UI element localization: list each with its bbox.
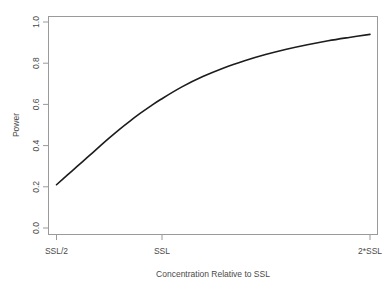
x-tick-label-2: 2*SSL: [358, 246, 382, 256]
y-tick-label-1: 0.2: [31, 181, 41, 193]
y-tick-label-2: 0.4: [31, 139, 41, 151]
plot-frame: [49, 17, 378, 235]
x-axis-ticks: [57, 235, 371, 240]
chart-canvas: 0.0 0.2 0.4 0.6 0.8 1.0 Power SSL/2 SSL …: [0, 0, 392, 289]
y-tick-label-5: 1.0: [31, 16, 41, 28]
x-tick-label-0: SSL/2: [45, 246, 68, 256]
y-axis-tick-labels: 0.0 0.2 0.4 0.6 0.8 1.0: [31, 16, 41, 234]
x-axis-title: Concentration Relative to SSL: [156, 269, 270, 279]
power-curve-line: [57, 34, 371, 184]
power-curve-figure: 0.0 0.2 0.4 0.6 0.8 1.0 Power SSL/2 SSL …: [0, 0, 392, 289]
y-tick-label-4: 0.8: [31, 57, 41, 69]
x-tick-label-1: SSL: [154, 246, 170, 256]
x-axis-tick-labels: SSL/2 SSL 2*SSL: [45, 246, 382, 256]
y-tick-label-0: 0.0: [31, 222, 41, 234]
y-axis-title: Power: [11, 113, 21, 137]
y-tick-label-3: 0.6: [31, 98, 41, 110]
y-axis-ticks: [43, 22, 48, 228]
